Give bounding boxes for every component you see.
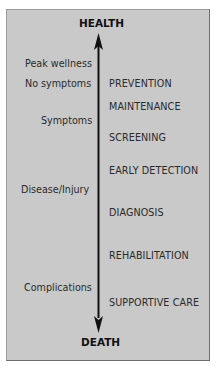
left-label-symptoms: Symptoms [41,115,92,126]
left-label-no-symptoms: No symptoms [25,78,91,89]
left-label-peak-wellness: Peak wellness [25,58,92,69]
death-label: DEATH [81,337,120,348]
left-label-disease-injury: Disease/Injury [21,184,89,195]
right-label-maintenance: MAINTENANCE [109,101,181,112]
right-label-diagnosis: DIAGNOSIS [109,207,164,218]
left-label-complications: Complications [24,282,92,293]
right-label-screening: SCREENING [109,132,166,143]
right-label-supportive-care: SUPPORTIVE CARE [109,297,199,308]
right-label-rehabilitation: REHABILITATION [109,250,189,261]
right-label-early-detection: EARLY DETECTION [109,165,198,176]
right-label-prevention: PREVENTION [109,78,172,89]
